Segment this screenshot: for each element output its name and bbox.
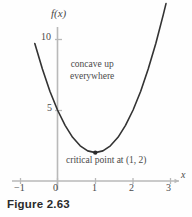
annotation-critical-point: critical point at (1, 2): [66, 156, 146, 166]
x-axis-arrowhead: [175, 179, 180, 184]
x-tick-label-2: 2: [129, 183, 134, 194]
x-tick-label-3: 3: [166, 183, 171, 194]
annotation-concave-up-line1: concave up: [71, 59, 114, 69]
x-tick-label-0: 0: [53, 183, 58, 194]
y-axis-label: f(x): [51, 8, 66, 20]
figure-caption: Figure 2.63: [7, 198, 70, 210]
x-tick-label-neg1: −1: [14, 183, 25, 194]
figure-container: f(x) x 10 5 −1 0 1 2 3 concave up everyw…: [0, 0, 192, 217]
annotation-concave-up: concave up everywhere: [70, 58, 114, 82]
x-tick-label-1: 1: [92, 183, 97, 194]
annotation-concave-up-line2: everywhere: [70, 71, 114, 81]
y-tick-label-5: 5: [47, 103, 52, 114]
x-axis-label: x: [181, 170, 185, 181]
y-tick-label-10: 10: [41, 32, 51, 43]
